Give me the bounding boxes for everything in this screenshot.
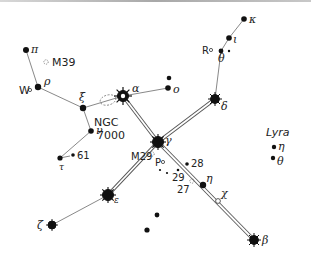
star-omicron1 (165, 85, 171, 91)
star-61 (71, 153, 75, 157)
star-gamma (150, 134, 166, 150)
stars (23, 16, 276, 232)
star-tau (57, 155, 62, 160)
label-29: 29 (172, 172, 185, 183)
star-28 (185, 162, 189, 166)
star-rho (35, 84, 41, 90)
label-rho: ρ (43, 75, 51, 88)
label-P: P (155, 157, 161, 168)
major-stars (46, 87, 261, 247)
label-7000: 7000 (97, 129, 125, 142)
label-zeta: ζ (37, 219, 44, 232)
label-tau: τ (59, 162, 65, 172)
label-61: 61 (77, 150, 90, 161)
label-lyra-eta: η (278, 140, 285, 153)
star-labels: π ρ ξ α o κ ι θ δ ν τ γ η χ ε ζ β η θ (30, 13, 285, 247)
label-lyra-theta: θ (277, 155, 284, 168)
star-unlabeled-2 (144, 227, 149, 232)
star-kappa (241, 16, 247, 22)
label-M39: M39 (52, 56, 76, 69)
label-R: R (202, 45, 209, 56)
label-gamma: γ (165, 134, 172, 147)
variable-chi (216, 199, 221, 204)
star-iota (226, 35, 232, 41)
object-labels: M39 W R NGC 7000 61 M29 P 28 29 27 Lyra (19, 45, 290, 195)
label-ngc: NGC (94, 116, 119, 129)
open-clusters (44, 60, 194, 183)
label-W: W (19, 84, 30, 97)
cluster-M39 (44, 60, 48, 64)
label-M29: M29 (131, 151, 152, 162)
label-alpha: α (132, 82, 140, 95)
star-zeta (46, 219, 58, 231)
label-eta: η (206, 172, 213, 185)
star-xi (80, 105, 86, 111)
label-28: 28 (191, 158, 204, 169)
nebula-outline (99, 93, 117, 107)
label-27: 27 (177, 184, 190, 195)
star-unlabeled-1 (155, 213, 160, 218)
star-pi (23, 47, 29, 53)
star-omicron2 (167, 76, 172, 81)
label-omicron: o (173, 83, 180, 96)
variable-R (209, 48, 212, 51)
star-alpha (114, 87, 132, 105)
label-delta: δ (221, 100, 228, 113)
label-theta: θ (218, 52, 225, 65)
cross-double-lines (108, 96, 254, 240)
star-nu (88, 128, 94, 134)
label-kappa: κ (248, 13, 257, 26)
label-iota: ι (233, 33, 237, 46)
variable-P (161, 160, 164, 163)
label-lyra: Lyra (266, 126, 290, 139)
star-delta (208, 92, 222, 106)
label-epsilon: ε (114, 195, 119, 205)
label-chi: χ (220, 187, 229, 200)
label-xi: ξ (79, 91, 86, 104)
star-beta (247, 233, 261, 247)
star-chart: π ρ ξ α o κ ι θ δ ν τ γ η χ ε ζ β η θ M3… (0, 0, 311, 262)
label-beta: β (261, 234, 268, 247)
star-lyra-eta (272, 145, 276, 149)
cluster-27 (190, 179, 194, 183)
star-lyra-theta (271, 156, 275, 160)
label-pi: π (30, 43, 39, 56)
